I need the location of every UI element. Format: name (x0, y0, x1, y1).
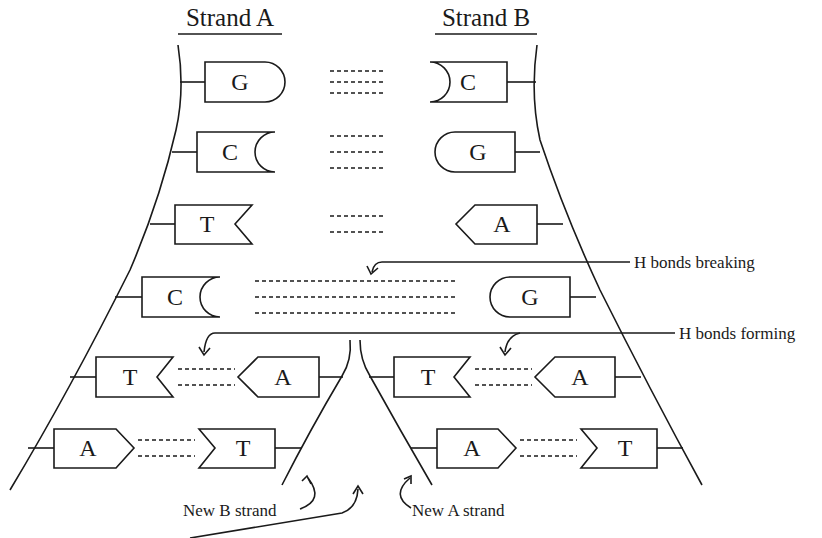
right-fork-row-6: A T (411, 429, 683, 468)
title-strand-b: Strand B (435, 4, 537, 34)
dna-replication-diagram: Strand A Strand B G C C G T (0, 0, 822, 538)
title-strand-a: Strand A (178, 4, 282, 34)
label-new-a-strand: New A strand (412, 501, 505, 520)
callout-curve (400, 478, 411, 508)
callout-h-bonds-breaking: H bonds breaking (367, 253, 755, 274)
left-fork-row-6: A T (28, 429, 302, 468)
base-label: C (167, 284, 183, 310)
base-label: T (421, 364, 436, 390)
base-label: A (571, 364, 589, 390)
base-label: C (222, 139, 238, 165)
label-h-bonds-breaking: H bonds breaking (634, 253, 755, 272)
callout-curve (300, 478, 315, 509)
callout-new-a-strand: New A strand (400, 476, 505, 520)
base-label: A (463, 435, 481, 461)
base-label: T (236, 435, 251, 461)
base-label: A (79, 435, 97, 461)
base-label: G (469, 139, 486, 165)
base-pair-row-1: G C (180, 62, 536, 102)
base-pair-row-3: T A (150, 205, 563, 244)
callout-h-bonds-forming: H bonds forming (199, 324, 796, 355)
arrowhead-icon (302, 476, 311, 484)
base-label: A (493, 211, 511, 237)
right-fork-row-5: T A (369, 357, 641, 397)
base-label: A (274, 364, 292, 390)
base-label: T (123, 364, 138, 390)
base-label: T (618, 435, 633, 461)
base-label: C (460, 69, 476, 95)
base-label: T (200, 211, 215, 237)
callout-new-b-strand: New B strand (183, 476, 363, 538)
base-pair-row-4: C G (115, 277, 596, 317)
base-label: G (231, 69, 248, 95)
left-fork-row-5: T A (70, 357, 343, 397)
base-label: G (521, 284, 538, 310)
label-new-b-strand: New B strand (183, 501, 277, 520)
label-h-bonds-forming: H bonds forming (679, 324, 796, 343)
strand-a-title: Strand A (186, 4, 274, 31)
strand-a-backbone (10, 45, 181, 490)
callout-line (204, 333, 675, 352)
callout-branch (505, 333, 520, 352)
base-pair-row-2: C G (172, 132, 540, 172)
strand-b-title: Strand B (442, 4, 530, 31)
